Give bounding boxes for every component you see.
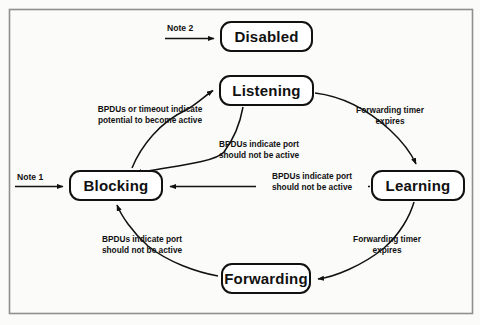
state-label-forwarding: Forwarding	[224, 270, 308, 287]
edge-label-listening-to-learning: Forwarding timer expires	[347, 105, 433, 126]
note-label-note1: Note 1	[17, 172, 43, 182]
edge-label-learning-to-forwarding: Forwarding timer expires	[344, 234, 430, 255]
arrow-listening-to-learning	[315, 93, 416, 164]
state-box-blocking[interactable]: Blocking	[69, 170, 163, 201]
edge-label-listening-to-blocking: BPDUs indicate port should not be active	[203, 139, 315, 160]
edge-label-learning-to-blocking: BPDUs indicate port should not be active	[256, 171, 368, 192]
state-label-blocking: Blocking	[84, 177, 149, 194]
state-label-learning: Learning	[386, 177, 451, 194]
note-label-note2: Note 2	[167, 23, 193, 33]
state-box-forwarding[interactable]: Forwarding	[221, 263, 311, 294]
state-label-disabled: Disabled	[234, 28, 298, 45]
state-box-disabled[interactable]: Disabled	[220, 21, 313, 52]
edge-label-forwarding-to-blocking: BPDUs indicate port should not be active	[86, 234, 198, 255]
state-box-listening[interactable]: Listening	[219, 75, 314, 106]
edge-label-blocking-to-listening: BPDUs or timeout indicate potential to b…	[82, 104, 218, 125]
diagram-canvas: Disabled Listening Blocking Learning For…	[0, 0, 480, 325]
state-box-learning[interactable]: Learning	[371, 170, 465, 201]
arrow-blocking-to-listening	[132, 91, 213, 169]
state-label-listening: Listening	[232, 82, 300, 99]
